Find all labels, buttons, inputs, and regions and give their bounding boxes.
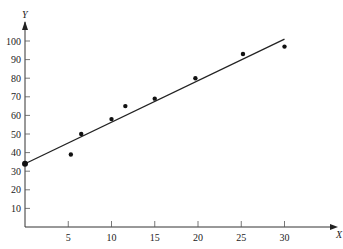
data-point: [79, 132, 83, 136]
data-point: [241, 52, 245, 56]
y-tick-label: 30: [11, 166, 21, 177]
x-tick-label: 5: [66, 232, 71, 243]
data-point: [22, 161, 28, 167]
y-tick-label: 80: [11, 73, 21, 84]
data-point: [153, 96, 157, 100]
y-tick-label: 60: [11, 110, 21, 121]
chart-canvas: YX10203040506070809010051015202530: [0, 0, 343, 249]
x-tick-label: 30: [280, 232, 290, 243]
x-tick-label: 25: [236, 232, 246, 243]
data-point: [69, 152, 73, 156]
y-axis-arrow-icon: [22, 21, 28, 30]
data-point: [123, 104, 127, 108]
y-tick-label: 50: [11, 129, 21, 140]
data-point: [193, 76, 197, 80]
x-tick-label: 20: [193, 232, 203, 243]
regression-line: [25, 39, 285, 164]
x-tick-label: 10: [107, 232, 117, 243]
scatter-chart: YX10203040506070809010051015202530: [0, 0, 343, 249]
y-tick-label: 10: [11, 203, 21, 214]
data-point: [282, 44, 286, 48]
y-tick-label: 20: [11, 184, 21, 195]
x-tick-label: 15: [150, 232, 160, 243]
y-tick-label: 100: [6, 36, 21, 47]
y-tick-label: 90: [11, 54, 21, 65]
y-axis-label: Y: [22, 9, 29, 20]
y-tick-label: 40: [11, 147, 21, 158]
data-point: [109, 117, 113, 121]
y-tick-label: 70: [11, 91, 21, 102]
x-axis-label: X: [335, 229, 343, 240]
